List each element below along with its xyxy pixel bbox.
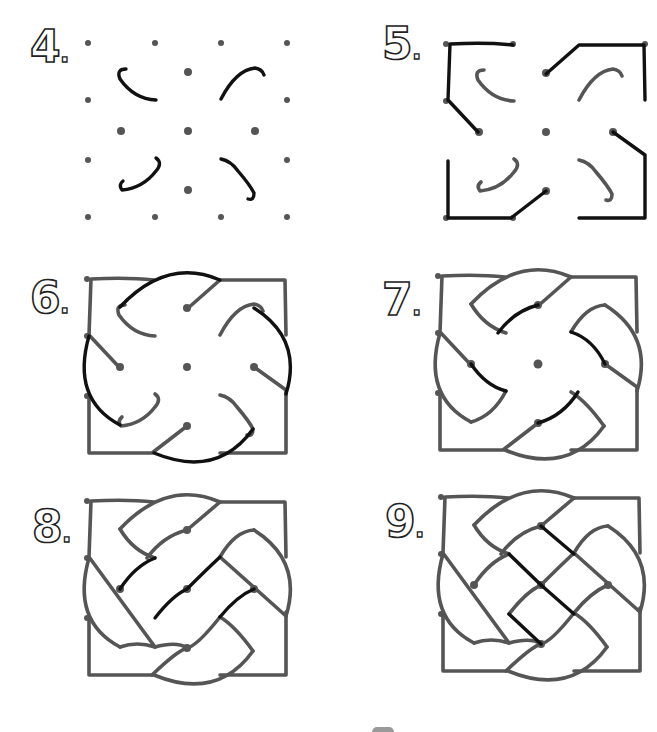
grey-hooks-icon bbox=[477, 69, 622, 200]
diagonal-strokes-icon bbox=[120, 557, 254, 618]
step-8-label: 8. bbox=[32, 505, 71, 549]
step-4-dot-grid bbox=[88, 43, 288, 219]
hook-strokes-icon bbox=[119, 68, 264, 199]
step-4-label: 4. bbox=[30, 25, 69, 69]
inner-dots-icon bbox=[117, 68, 259, 194]
step-9-panel: 9. bbox=[330, 470, 657, 732]
step-6-panel: 6. bbox=[0, 240, 330, 480]
step-7-label: 7. bbox=[382, 278, 421, 322]
step-8-panel: 8. bbox=[0, 470, 330, 732]
step-6-arcs bbox=[87, 279, 287, 455]
dots-icon bbox=[443, 41, 648, 221]
step-7-panel: 7. bbox=[330, 240, 657, 480]
step-5-frame-corners bbox=[446, 44, 646, 220]
dots-icon bbox=[435, 273, 609, 427]
step-9-woven-lattice bbox=[441, 497, 641, 673]
step-9-label: 9. bbox=[385, 500, 424, 544]
step-5-label: 5. bbox=[382, 22, 421, 66]
step-5-panel: 5. bbox=[330, 0, 657, 240]
step-7-connectors bbox=[438, 276, 638, 452]
step-8-diagonal-bands bbox=[87, 501, 287, 677]
page-edge-mark bbox=[372, 727, 394, 732]
step-6-label: 6. bbox=[30, 276, 69, 320]
step-4-panel: 4. bbox=[0, 0, 330, 240]
dots-icon bbox=[84, 498, 258, 652]
dots-icon bbox=[84, 276, 258, 430]
